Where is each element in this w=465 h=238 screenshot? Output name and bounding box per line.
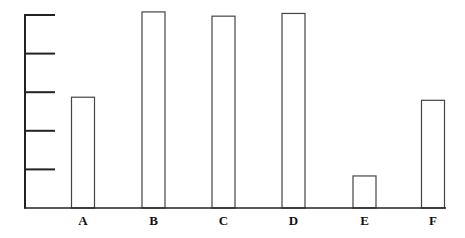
x-tick-label-f: F	[429, 213, 437, 228]
x-tick-label-a: A	[78, 213, 88, 228]
bar-f	[422, 100, 445, 208]
bar-c	[212, 16, 235, 208]
bar-d	[282, 13, 305, 208]
bar-b	[142, 12, 165, 208]
x-tick-label-e: E	[360, 213, 369, 228]
x-axis-labels: ABCDEF	[78, 213, 437, 228]
bar-a	[72, 97, 95, 208]
bars	[72, 12, 445, 208]
bar-chart: ABCDEF	[0, 0, 465, 238]
bar-e	[353, 176, 376, 208]
x-tick-label-d: D	[289, 213, 298, 228]
y-axis-ticks	[25, 15, 55, 169]
x-tick-label-b: B	[149, 213, 158, 228]
x-tick-label-c: C	[219, 213, 228, 228]
